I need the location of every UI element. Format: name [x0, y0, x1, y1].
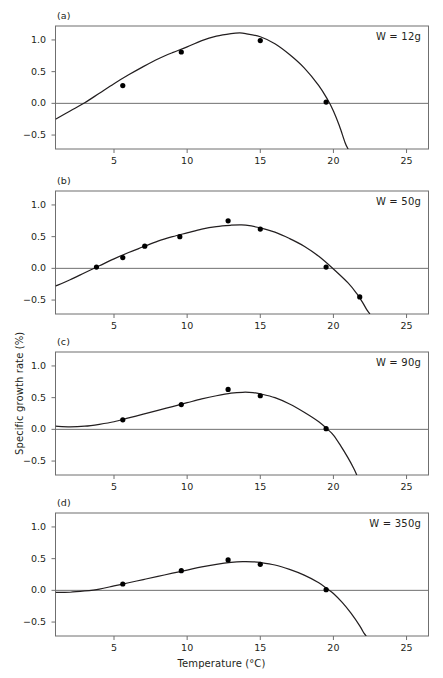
- fitted-curve: [56, 33, 349, 149]
- data-point: [324, 264, 329, 269]
- x-tick-label: 5: [94, 642, 134, 653]
- y-tick-label: −0.5: [8, 616, 46, 627]
- y-tick-label: −0.5: [8, 455, 46, 466]
- y-tick-label: 1.0: [8, 199, 46, 210]
- data-point: [177, 234, 182, 239]
- plot-area: [0, 487, 443, 662]
- x-tick-label: 20: [313, 642, 353, 653]
- data-point: [226, 218, 231, 223]
- plot-area: [0, 165, 443, 340]
- y-tick-label: −0.5: [8, 129, 46, 140]
- panel-c: (c)W = 90g−0.50.00.51.0510152025: [0, 326, 443, 501]
- fitted-curve: [56, 225, 370, 314]
- y-tick-label: 0.0: [8, 262, 46, 273]
- plot-frame: [56, 352, 429, 475]
- panel-d: (d)W = 350g−0.50.00.51.0510152025: [0, 487, 443, 662]
- x-tick-label: 10: [167, 642, 207, 653]
- plot-frame: [56, 191, 429, 314]
- weight-annotation: W = 12g: [376, 31, 421, 42]
- data-point: [258, 38, 263, 43]
- data-point: [357, 294, 362, 299]
- data-point: [258, 393, 263, 398]
- weight-annotation: W = 350g: [369, 518, 421, 529]
- data-point: [324, 587, 329, 592]
- data-point: [324, 426, 329, 431]
- data-point: [179, 402, 184, 407]
- panel-b: (b)W = 50g−0.50.00.51.0510152025: [0, 165, 443, 340]
- y-tick-label: 0.0: [8, 584, 46, 595]
- y-tick-label: 0.0: [8, 97, 46, 108]
- y-tick-label: 0.5: [8, 231, 46, 242]
- plot-frame: [56, 26, 429, 149]
- y-tick-label: 0.5: [8, 66, 46, 77]
- y-tick-label: 1.0: [8, 521, 46, 532]
- panel-tag: (c): [57, 336, 70, 347]
- weight-annotation: W = 50g: [376, 196, 421, 207]
- panel-a: (a)W = 12g−0.50.00.51.0510152025: [0, 0, 443, 175]
- data-point: [179, 49, 184, 54]
- fitted-curve: [56, 562, 367, 636]
- plot-frame: [56, 513, 429, 636]
- data-point: [226, 387, 231, 392]
- x-tick-label: 25: [387, 642, 427, 653]
- y-tick-label: −0.5: [8, 294, 46, 305]
- data-point: [258, 562, 263, 567]
- data-point: [258, 226, 263, 231]
- x-tick-label: 15: [240, 642, 280, 653]
- data-point: [226, 557, 231, 562]
- panel-tag: (a): [57, 10, 71, 21]
- weight-annotation: W = 90g: [376, 357, 421, 368]
- plot-area: [0, 0, 443, 175]
- data-point: [142, 244, 147, 249]
- figure-container: Specific growth rate (%) Temperature (°C…: [0, 0, 443, 678]
- data-point: [324, 99, 329, 104]
- panel-tag: (d): [57, 497, 71, 508]
- data-point: [120, 417, 125, 422]
- data-point: [94, 264, 99, 269]
- y-tick-label: 1.0: [8, 360, 46, 371]
- y-tick-label: 0.5: [8, 553, 46, 564]
- plot-area: [0, 326, 443, 501]
- panel-tag: (b): [57, 175, 71, 186]
- y-tick-label: 0.0: [8, 423, 46, 434]
- data-point: [120, 255, 125, 260]
- data-point: [179, 568, 184, 573]
- fitted-curve: [56, 392, 357, 475]
- data-point: [120, 83, 125, 88]
- y-tick-label: 1.0: [8, 34, 46, 45]
- data-point: [120, 581, 125, 586]
- y-tick-label: 0.5: [8, 392, 46, 403]
